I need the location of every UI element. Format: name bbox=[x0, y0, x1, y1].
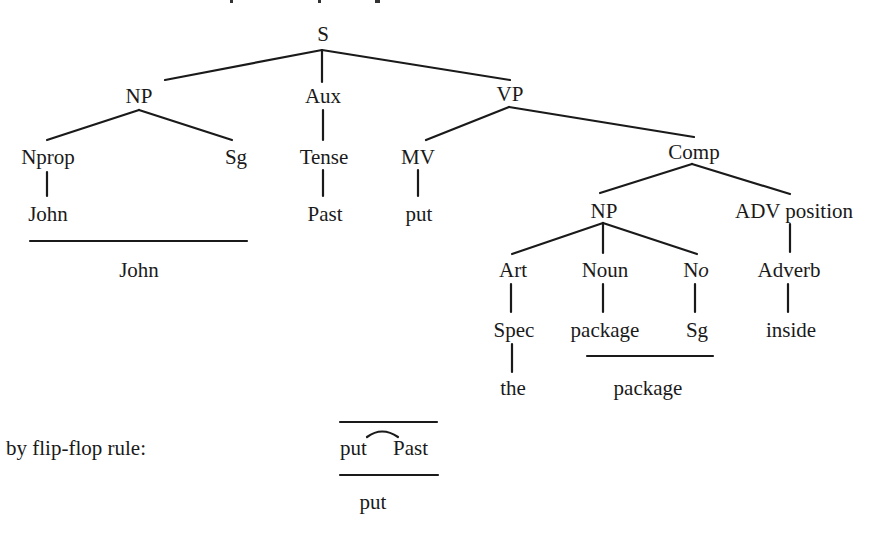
derived-john: John bbox=[119, 258, 159, 282]
leaf-put: put bbox=[406, 202, 433, 226]
node-spec: Spec bbox=[494, 318, 535, 342]
rule-caption: by flip-flop rule: bbox=[6, 436, 146, 460]
leaf-package: package bbox=[571, 318, 640, 342]
node-np-object: NP bbox=[591, 199, 618, 223]
node-s: S bbox=[317, 22, 329, 46]
node-sg: Sg bbox=[225, 145, 247, 169]
node-aux: Aux bbox=[305, 84, 341, 108]
leaf-inside: inside bbox=[766, 318, 816, 342]
node-number: No bbox=[683, 258, 709, 282]
derived-package: package bbox=[614, 376, 683, 400]
rule-input-right: Past bbox=[393, 436, 428, 460]
rule-output: put bbox=[360, 490, 387, 514]
clipped-heading-fragment bbox=[230, 0, 380, 3]
node-adv-position: ADV position bbox=[735, 199, 853, 223]
leaf-past: Past bbox=[307, 202, 342, 226]
node-mv: MV bbox=[401, 145, 435, 169]
node-np: NP bbox=[126, 84, 153, 108]
node-comp: Comp bbox=[668, 140, 719, 164]
node-adverb: Adverb bbox=[758, 258, 821, 282]
leaf-john: John bbox=[28, 202, 68, 226]
node-art: Art bbox=[499, 258, 527, 282]
node-vp: VP bbox=[497, 82, 524, 106]
rule-input-left: put bbox=[340, 436, 367, 460]
leaf-the: the bbox=[500, 376, 526, 400]
node-tense: Tense bbox=[300, 145, 349, 169]
leaf-sg: Sg bbox=[686, 318, 708, 342]
node-noun: Noun bbox=[582, 258, 629, 282]
node-nprop: Nprop bbox=[21, 145, 75, 169]
